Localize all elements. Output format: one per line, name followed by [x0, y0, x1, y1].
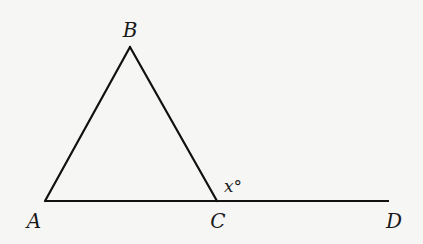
- segment-ab: [45, 47, 130, 201]
- point-label-b: B: [123, 20, 138, 40]
- triangle-diagram: [0, 0, 423, 244]
- point-label-d: D: [386, 211, 402, 231]
- segment-bc: [130, 47, 217, 201]
- point-label-a: A: [27, 211, 41, 231]
- point-label-c: C: [210, 211, 225, 231]
- geometry-figure: B A C D x°: [0, 0, 423, 244]
- exterior-angle-label: x°: [224, 178, 242, 195]
